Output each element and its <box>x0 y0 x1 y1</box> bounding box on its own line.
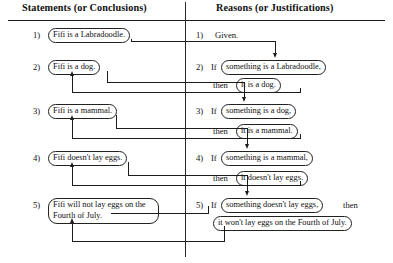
connector-s1-r2-run <box>131 41 276 42</box>
connector-s1-r2-drop <box>275 41 276 53</box>
proof-table: Statements (or Conclusions) Reasons (or … <box>0 0 393 263</box>
header-divider-rule <box>8 20 385 21</box>
statement-number-3: 3) <box>33 106 40 116</box>
connector-s3-r4-drop <box>247 128 248 144</box>
connector-r4-s4-arrowhead <box>70 162 74 167</box>
connector-s4-r5-drop <box>247 175 248 191</box>
reason-antecedent-box-3: something is a dog, <box>221 104 296 119</box>
reason-consequent-box-2: it is a dog. <box>236 78 281 93</box>
reason-text-1: Given. <box>215 30 238 40</box>
connector-s2-r3-arrowhead <box>242 97 246 102</box>
reason-if-keyword-2: If <box>211 62 217 72</box>
connector-r3-s3-run <box>72 138 301 139</box>
reason-antecedent-box-4: something is a mammal, <box>221 151 313 166</box>
reason-number-5: 5) <box>196 200 203 210</box>
statement-number-2: 2) <box>33 62 40 72</box>
column-header-reasons: Reasons (or Justifications) <box>216 2 333 13</box>
connector-s4-r5-run <box>128 175 248 176</box>
connector-s4-r5-arrowhead <box>245 191 249 196</box>
statement-number-4: 4) <box>33 153 40 163</box>
statement-box-3: Fifi is a mammal. <box>48 104 117 119</box>
reason-if-keyword-4: If <box>211 153 217 163</box>
connector-r5-s5-run <box>72 241 225 242</box>
reason-if-keyword-3: If <box>211 106 217 116</box>
connector-s2-r3-run <box>107 82 245 83</box>
statement-box-5: Fifi will not lay eggs on the Fourth of … <box>48 198 159 224</box>
connector-s4-r5-stub <box>128 162 129 176</box>
reason-number-4: 4) <box>196 153 203 163</box>
statement-box-2: Fifi is a dog. <box>48 60 100 75</box>
connector-s3-r4-run <box>116 128 248 129</box>
statement-number-1: 1) <box>33 30 40 40</box>
reason-then-keyword-5: then <box>343 200 358 210</box>
connector-r2-s2-run <box>72 92 301 93</box>
connector-s3-r4-stub <box>116 115 117 129</box>
connector-r2-s2-arrowhead <box>70 71 74 76</box>
connector-s1-r2-arrowhead <box>273 53 277 58</box>
reason-number-2: 2) <box>196 62 203 72</box>
statement-box-4: Fifi doesn't lay eggs. <box>48 151 127 166</box>
connector-r4-s4-rise <box>72 167 73 186</box>
connector-s3-r4-arrowhead <box>245 144 249 149</box>
column-header-statements: Statements (or Conclusions) <box>22 2 147 13</box>
connector-s5-tail-run <box>111 213 209 214</box>
connector-r5-s5-stub <box>224 226 225 242</box>
reason-number-1: 1) <box>196 30 203 40</box>
connector-r3-s3-rise <box>72 120 73 139</box>
reason-antecedent-box-2: something is a Labradoodle, <box>221 60 326 75</box>
connector-r2-s2-rise <box>72 76 73 93</box>
connector-s5-tail-rise <box>208 206 209 214</box>
reason-consequent-box-5: it won't lay eggs on the Fourth of July. <box>213 216 352 231</box>
reason-if-keyword-5: If <box>211 200 217 210</box>
reason-consequent-box-3: it is a mammal. <box>236 124 298 139</box>
connector-r4-s4-run <box>72 185 301 186</box>
connector-r3-s3-arrowhead <box>70 115 74 120</box>
connector-r5-s5-rise <box>72 223 73 242</box>
connector-r5-s5-arrowhead <box>70 218 74 223</box>
reason-antecedent-box-5: something doesn't lay eggs, <box>221 198 323 213</box>
connector-s2-r3-drop <box>244 82 245 97</box>
statement-box-1: Fifi is a Labradoodle. <box>48 28 130 43</box>
statement-number-5: 5) <box>33 200 40 210</box>
reason-number-3: 3) <box>196 106 203 116</box>
